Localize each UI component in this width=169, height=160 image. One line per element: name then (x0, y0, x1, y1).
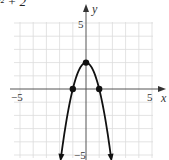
x-max-tick-label: 5 (147, 91, 153, 103)
x-axis-label: x (160, 91, 167, 105)
marked-point (96, 86, 102, 92)
grid (14, 22, 153, 158)
y-max-tick-label: 5 (78, 18, 84, 30)
y-axis-arrow-icon (83, 4, 89, 12)
x-min-tick-label: −5 (11, 91, 23, 103)
marked-point (70, 86, 76, 92)
graph: x y −5 5 5 −5 (0, 0, 169, 160)
marked-point (83, 59, 89, 65)
curve-arrow-icon (58, 154, 64, 160)
y-min-tick-label: −5 (74, 149, 86, 160)
curve-arrow-icon (108, 154, 114, 160)
y-axis-label: y (91, 2, 98, 16)
